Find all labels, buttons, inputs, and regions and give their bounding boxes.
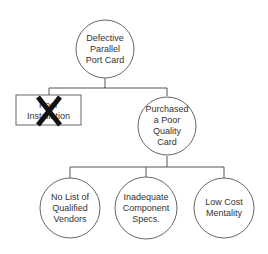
vendors-line-2: Qualified <box>52 203 88 214</box>
specs-line-2: Component <box>123 203 170 214</box>
root-label: Defective Parallel Port Card <box>76 32 134 66</box>
root-line-2: Parallel <box>90 44 120 55</box>
vendors-line-3: Vendors <box>53 214 86 225</box>
purchased-line-3: Quality <box>153 126 181 137</box>
installation-line-2: Installation <box>27 111 70 122</box>
purchased-line-1: Purchased <box>145 104 188 115</box>
mentality-line-1: Low Cost <box>205 197 243 208</box>
mentality-line-2: Mentality <box>206 208 242 219</box>
specs-label: Inadequate Component Specs. <box>115 191 177 225</box>
purchased-label: Purchased a Poor Quality Card <box>138 104 196 148</box>
specs-line-3: Specs. <box>132 214 160 225</box>
mentality-label: Low Cost Mentality <box>194 197 254 219</box>
root-line-3: Port Card <box>86 55 125 66</box>
installation-label: Poor Installation <box>16 96 81 125</box>
vendors-label: No List of Qualified Vendors <box>40 191 100 225</box>
purchased-line-4: Card <box>157 137 177 148</box>
root-line-1: Defective <box>86 33 124 44</box>
vendors-line-1: No List of <box>51 192 89 203</box>
installation-line-1: Poor <box>39 100 58 111</box>
specs-line-1: Inadequate <box>123 192 168 203</box>
purchased-line-2: a Poor <box>154 115 181 126</box>
